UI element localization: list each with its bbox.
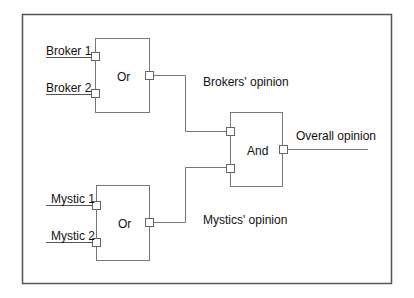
and-label: And (247, 144, 268, 158)
brokers-opinion-label: Brokers' opinion (203, 75, 289, 89)
and-output-port (280, 146, 288, 154)
or-brokers-output-port (146, 72, 154, 80)
or-mystics-output-port (146, 219, 154, 227)
mystics-opinion-label: Mystics' opinion (203, 213, 287, 227)
mystic2-label: Mystic 2 (51, 229, 95, 243)
broker2-label: Broker 2 (46, 81, 91, 95)
mystic1-label: Mystic 1 (51, 192, 95, 206)
broker1-label: Broker 1 (46, 44, 91, 58)
or-brokers-input-port-1 (92, 53, 100, 61)
and-input-port-1 (227, 128, 235, 136)
or-mystics-label: Or (118, 217, 131, 231)
or-brokers-input-port-2 (92, 90, 100, 98)
or-brokers-label: Or (117, 70, 130, 84)
overall-opinion-label: Overall opinion (296, 129, 376, 143)
and-input-port-2 (227, 165, 235, 173)
